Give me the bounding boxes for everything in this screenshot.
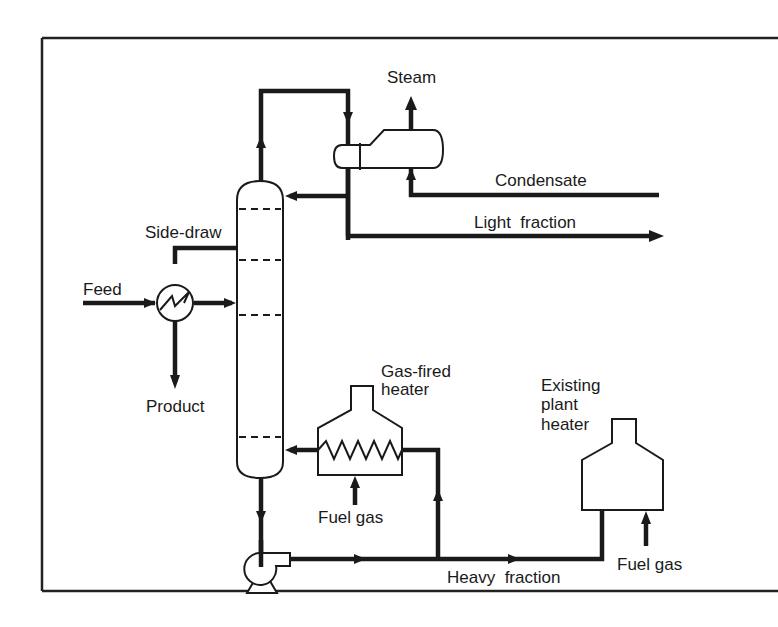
fuel-gas-line-1 [350,476,360,505]
flow-arrow-icon [256,136,266,148]
steam-outlet [405,96,417,130]
label-fuel-gas-2: Fuel gas [617,555,682,574]
arrow-down-icon [256,511,266,523]
arrow-up-icon [641,511,651,524]
label-light-fraction: Light fraction [474,213,576,232]
condenser-steam-generator [334,130,443,170]
label-feed: Feed [83,280,122,299]
arrow-up-icon [406,168,416,180]
arrow-right-icon [144,298,156,308]
label-condensate: Condensate [495,171,587,190]
fuel-gas-line-2 [641,511,651,546]
arrow-up-icon [350,476,360,488]
distillation-column [237,181,283,478]
arrow-left-icon [285,445,297,455]
label-gas-fired-heater-2: heater [381,380,430,399]
label-fuel-gas-1: Fuel gas [318,508,383,527]
arrow-down-icon [170,375,180,389]
arrow-right-icon [354,554,366,564]
arrow-right-icon [649,230,664,242]
existing-plant-heater [582,419,663,510]
label-gas-fired-heater: Gas-fired [381,362,451,381]
reflux-line [285,168,348,236]
label-product: Product [146,397,205,416]
product-line [170,321,180,389]
arrow-up-icon [405,96,417,110]
label-steam: Steam [387,68,436,87]
label-existing: Existing [541,376,601,395]
gas-fired-heater [318,386,402,475]
flow-arrow-icon [343,112,353,124]
arrow-right-icon [224,298,236,308]
feed-heat-exchanger [157,285,193,321]
label-heavy-fraction: Heavy fraction [447,568,560,587]
label-plant: plant [541,395,578,414]
arrow-right-icon [508,554,520,564]
side-draw-line [175,248,237,264]
label-heater: heater [541,415,590,434]
label-side-draw: Side-draw [145,223,222,242]
process-flow-diagram: Steam Condensate Light fraction Side-dra… [0,0,778,627]
centrifugal-pump [244,540,290,593]
arrow-left-icon [285,191,297,201]
arrow-up-icon [433,489,443,501]
